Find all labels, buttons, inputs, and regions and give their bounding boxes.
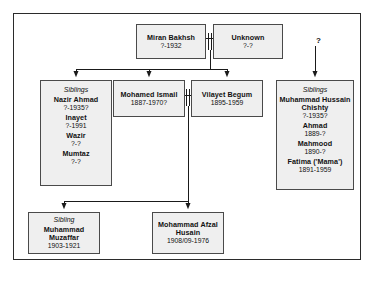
node-vilayet-begum[interactable]: Vilayet Begum 1895-1959 [191,80,263,117]
node-dates: 1895-1959 [194,99,260,107]
family-tree-diagram: ? Miran Bakhsh ?-1932 Unknown ?-? Siblin… [0,0,377,285]
sibling-dates: ?-1991 [43,122,109,130]
sibling-dates: ?-1935? [43,104,109,112]
node-name: Unknown [216,34,280,42]
node-siblings-left[interactable]: Siblings Nazir Ahmad ?-1935? Inayet ?-19… [40,80,112,186]
sibling-dates: 1889-? [279,130,351,138]
node-name: Mohamed Ismail [116,91,182,99]
node-name: Mohammad Afzal Husain [155,221,221,237]
sibling-dates: 1890-? [279,148,351,156]
sibling-name: Nazir Ahmad [43,96,109,104]
node-dates: 1903-1921 [31,242,97,250]
sibling-entry: Muhammad Hussain Chishty ?-1935? [279,96,351,120]
node-name: Vilayet Begum [194,91,260,99]
sibling-name: Mahmood [279,140,351,148]
sibling-entry: Mumtaz ?-? [43,150,109,166]
sibling-group-header: Siblings [279,86,351,94]
sibling-dates: 1891-1959 [279,166,351,174]
sibling-name: Inayet [43,114,109,122]
node-mohammad-afzal-husain[interactable]: Mohammad Afzal Husain 1908/09-1976 [152,212,224,254]
node-miran-bakhsh[interactable]: Miran Bakhsh ?-1932 [136,24,206,59]
node-muhammad-muzaffar[interactable]: Sibling Muhammad Muzaffar 1903-1921 [28,212,100,254]
unknown-parent-label: ? [316,36,321,45]
sibling-group-header: Siblings [43,86,109,94]
sibling-name: Wazir [43,132,109,140]
sibling-entry: Fatima ('Mama') 1891-1959 [279,158,351,174]
node-dates: 1908/09-1976 [155,237,221,245]
sibling-dates: ?-? [43,158,109,166]
node-mohamed-ismail[interactable]: Mohamed Ismail 1887-1970? [113,80,185,117]
sibling-name: Mumtaz [43,150,109,158]
sibling-entry: Nazir Ahmad ?-1935? [43,96,109,112]
node-dates: 1887-1970? [116,99,182,107]
sibling-entry: Ahmad 1889-? [279,122,351,138]
sibling-dates: ?-1935? [279,112,351,120]
node-name: Miran Bakhsh [139,34,203,42]
node-unknown-spouse[interactable]: Unknown ?-? [213,24,283,59]
sibling-entry: Inayet ?-1991 [43,114,109,130]
node-siblings-right[interactable]: Siblings Muhammad Hussain Chishty ?-1935… [276,80,354,190]
node-dates: ?-? [216,42,280,50]
sibling-entry: Wazir ?-? [43,132,109,148]
sibling-dates: ?-? [43,140,109,148]
sibling-group-header: Sibling [31,216,97,224]
node-dates: ?-1932 [139,42,203,50]
sibling-entry: Mahmood 1890-? [279,140,351,156]
sibling-name: Muhammad Hussain Chishty [279,96,351,112]
node-name: Muhammad Muzaffar [31,226,97,242]
sibling-name: Ahmad [279,122,351,130]
sibling-name: Fatima ('Mama') [279,158,351,166]
